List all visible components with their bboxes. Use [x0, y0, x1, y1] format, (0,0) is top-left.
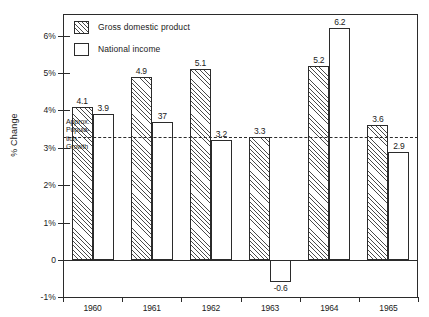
- annotation-line: Approx.: [66, 118, 104, 127]
- x-axis-tick-label: 1960: [84, 303, 102, 313]
- bar-value-label-national-income: 3.9: [97, 103, 108, 113]
- legend-label: National income: [98, 44, 160, 54]
- y-axis-tick-label: 0: [51, 255, 56, 265]
- bar-gross-domestic-product: [308, 66, 329, 260]
- x-tick-mark: [63, 297, 64, 302]
- legend-swatch-hatched-icon: [74, 21, 89, 34]
- bar-value-label-gdp: 3.3: [254, 126, 265, 136]
- bar-gross-domestic-product: [131, 77, 152, 260]
- x-axis-tick-label: 1964: [320, 303, 338, 313]
- bar-value-label-gdp: 3.6: [372, 114, 383, 124]
- bar-chart: % Change -1%01%2%3%4%5%6% 4.13.94.9375.1…: [0, 0, 429, 317]
- bar-value-label-gdp: 5.2: [313, 55, 324, 65]
- y-axis-tick-label: -1%: [41, 292, 56, 302]
- bar-gross-domestic-product: [190, 69, 211, 260]
- bar-value-label-gdp: 4.1: [76, 96, 87, 106]
- bar-national-income: [152, 122, 173, 260]
- bar-value-label-gdp: 4.9: [136, 66, 147, 76]
- annotation-line: tion: [66, 135, 104, 144]
- x-tick-mark: [359, 297, 360, 302]
- x-tick-mark: [122, 297, 123, 302]
- chart-legend: Gross domestic product National income: [74, 18, 190, 62]
- bar-value-label-national-income: -0.6: [274, 283, 288, 293]
- x-axis-tick-label: 1963: [261, 303, 279, 313]
- legend-item-national-income: National income: [74, 40, 190, 58]
- x-axis-tick-label: 1961: [143, 303, 161, 313]
- bar-value-label-gdp: 5.1: [195, 58, 206, 68]
- y-axis-tick-label: 5%: [44, 68, 57, 78]
- y-axis-tick-label: 3%: [44, 143, 57, 153]
- bar-national-income: [329, 28, 350, 260]
- x-axis-tick-label: 1962: [202, 303, 220, 313]
- bar-value-label-national-income: 3.2: [216, 129, 227, 139]
- annotation-line: Popula-: [66, 126, 104, 135]
- bar-national-income: [211, 140, 232, 260]
- bar-value-label-national-income: 2.9: [393, 141, 404, 151]
- legend-label: Gross domestic product: [98, 22, 190, 32]
- legend-swatch-empty-icon: [74, 43, 89, 56]
- bar-national-income: [388, 152, 409, 260]
- legend-item-gross-domestic-product: Gross domestic product: [74, 18, 190, 36]
- y-axis-tick-label: 2%: [44, 180, 57, 190]
- population-growth-label: Approx.Popula-tionGrowth: [66, 118, 104, 152]
- population-growth-reference-line: [63, 137, 418, 138]
- x-axis-tick-label: 1965: [379, 303, 397, 313]
- bar-gross-domestic-product: [367, 125, 388, 260]
- x-tick-mark: [241, 297, 242, 302]
- bar-value-label-national-income: 6.2: [334, 17, 345, 27]
- y-axis-title: % Change: [9, 100, 19, 170]
- y-axis-tick-label: 4%: [44, 105, 57, 115]
- x-tick-mark: [300, 297, 301, 302]
- bar-national-income: [270, 260, 291, 282]
- bar-value-label-national-income: 37: [158, 111, 167, 121]
- x-tick-mark: [181, 297, 182, 302]
- x-tick-mark: [418, 297, 419, 302]
- y-axis-tick-label: 1%: [44, 218, 57, 228]
- annotation-line: Growth: [66, 143, 104, 152]
- y-axis-tick-label: 6%: [44, 31, 57, 41]
- bar-gross-domestic-product: [249, 137, 270, 260]
